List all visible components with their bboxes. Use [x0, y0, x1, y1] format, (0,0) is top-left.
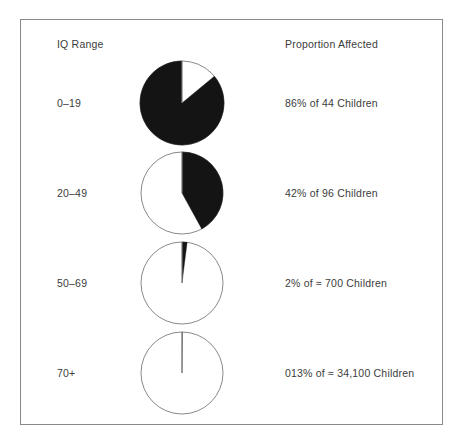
pie-row: 20–49 42% of 96 Children	[21, 148, 442, 238]
row-value-proportion: 013% of ≈ 34,100 Children	[285, 367, 414, 379]
row-value-proportion: 2% of ≈ 700 Children	[285, 277, 387, 289]
column-header-proportion-affected: Proportion Affected	[285, 38, 378, 50]
row-value-proportion: 86% of 44 Children	[285, 97, 378, 109]
column-header-iq-range: IQ Range	[57, 38, 104, 50]
row-label-iq-range: 50–69	[57, 277, 87, 289]
pie-chart	[134, 145, 230, 241]
row-value-proportion: 42% of 96 Children	[285, 187, 378, 199]
row-label-iq-range: 0–19	[57, 97, 81, 109]
pie-chart	[134, 55, 230, 151]
pie-row: 0–19 86% of 44 Children	[21, 58, 442, 148]
pie-row: 70+ 013% of ≈ 34,100 Children	[21, 328, 442, 418]
pie-chart	[134, 325, 230, 421]
row-label-iq-range: 20–49	[57, 187, 87, 199]
pie-row: 50–69 2% of ≈ 700 Children	[21, 238, 442, 328]
pie-chart	[134, 235, 230, 331]
figure-frame: IQ Range Proportion Affected 0–19 86% of…	[20, 19, 443, 425]
row-label-iq-range: 70+	[57, 367, 75, 379]
